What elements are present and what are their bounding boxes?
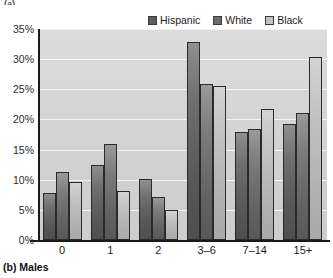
y-tick-label: 10% [1,174,34,185]
y-tick-label: 20% [1,114,34,125]
y-tick-label: 5% [1,204,34,215]
bar-hispanic-1 [91,165,104,240]
bar-black-15 [309,57,322,240]
bar-white-0 [56,172,69,240]
y-tick-label: 25% [1,84,34,95]
bar-white-714 [248,129,261,240]
bar-group [134,29,182,240]
bar-group [86,29,134,240]
chart-legend: Hispanic White Black [148,14,303,26]
bar-black-2 [165,210,178,240]
x-tick-label: 3–6 [197,243,215,257]
legend-label-hispanic: Hispanic [160,15,200,26]
legend-item-black: Black [265,15,303,26]
y-tick-label: 15% [1,144,34,155]
x-axis-tick-labels: 0123–67–1415+ [38,243,327,259]
bar-white-1 [104,144,117,240]
x-tick-label: 7–14 [243,243,267,257]
bar-black-714 [261,109,274,240]
legend-item-hispanic: Hispanic [148,15,200,26]
bar-group [231,29,279,240]
bar-white-15 [296,113,309,240]
x-tick-label: 1 [107,243,113,257]
bar-hispanic-714 [235,132,248,240]
bar-black-1 [117,191,130,240]
legend-swatch-hispanic [148,16,157,25]
bar-group [279,29,327,240]
bar-hispanic-15 [283,124,296,240]
figure-panel-b-males: (a) Hispanic White Black 0%5%10%15%20%25… [0,0,333,278]
bar-black-0 [69,182,82,240]
bar-hispanic-0 [43,193,56,240]
bar-group [38,29,86,240]
bar-white-2 [152,197,165,240]
x-tick-label: 0 [59,243,65,257]
bar-black-36 [213,86,226,240]
bar-hispanic-36 [187,42,200,240]
legend-label-black: Black [277,15,303,26]
legend-label-white: White [225,15,252,26]
legend-item-white: White [213,15,252,26]
legend-swatch-white [213,16,222,25]
y-tick-label: 30% [1,54,34,65]
y-axis-tick-labels: 0%5%10%15%20%25%30%35% [0,29,34,240]
clipped-panel-label: (a) [4,0,44,5]
x-axis-line [30,240,330,242]
x-tick-label: 15+ [294,243,313,257]
bar-group [183,29,231,240]
bar-hispanic-2 [139,179,152,240]
y-tick-label: 35% [1,24,34,35]
x-tick-label: 2 [155,243,161,257]
bars-layer [38,29,327,240]
legend-swatch-black [265,16,274,25]
figure-caption: (b) Males [3,261,49,274]
bar-white-36 [200,84,213,240]
